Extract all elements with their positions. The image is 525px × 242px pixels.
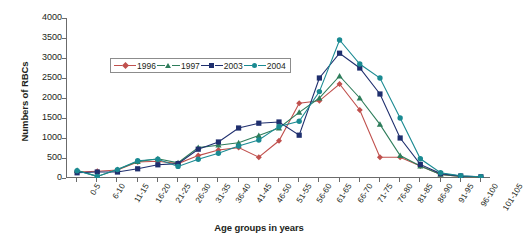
legend-item-2004[interactable]: 2004 <box>244 61 287 71</box>
x-tick-label: 86-90 <box>436 182 455 205</box>
x-tick-label: 46-50 <box>275 182 294 205</box>
x-tick-label: 11-15 <box>133 182 151 204</box>
x-tick-mark <box>298 178 299 182</box>
legend-label: 1996 <box>136 61 157 71</box>
x-tick-label: 26-30 <box>194 182 213 205</box>
legend-label: 1997 <box>180 61 201 71</box>
data-point <box>296 109 302 115</box>
data-point <box>337 37 342 42</box>
x-tick-mark <box>116 178 117 182</box>
x-tick-mark <box>197 178 198 182</box>
legend-item-2003[interactable]: 2003 <box>201 61 244 71</box>
y-tick-label: 1000 <box>18 133 62 142</box>
x-tick-label: 101-105 <box>501 182 525 212</box>
x-tick-mark <box>137 178 138 182</box>
legend-marker-icon <box>209 63 214 68</box>
data-point <box>196 157 201 162</box>
data-point <box>135 158 140 163</box>
data-point <box>256 137 261 142</box>
y-tick-mark <box>62 18 66 19</box>
x-axis-tick-labels: 0-56-1011-1516-2021-2526-3031-3536-4041-… <box>66 178 490 224</box>
data-point <box>297 133 302 138</box>
x-tick-mark <box>217 178 218 182</box>
data-point <box>115 167 120 172</box>
x-tick-mark <box>379 178 380 182</box>
x-tick-mark <box>318 178 319 182</box>
plot-area <box>66 18 490 178</box>
legend-item-1996[interactable]: 1996 <box>114 61 157 71</box>
y-tick-label: 3000 <box>18 53 62 62</box>
data-point <box>276 124 281 129</box>
legend: 1996199720032004 <box>110 58 291 73</box>
x-tick-mark <box>419 178 420 182</box>
x-tick-label: 36-40 <box>234 182 253 205</box>
x-tick-mark <box>238 178 239 182</box>
data-point <box>155 157 160 162</box>
y-tick-label: 1500 <box>18 113 62 122</box>
y-tick-label: 3500 <box>18 33 62 42</box>
x-tick-label: 66-70 <box>355 182 374 205</box>
y-tick-mark <box>62 78 66 79</box>
x-tick-label: 81-85 <box>416 182 435 205</box>
x-tick-label: 41-45 <box>254 182 273 205</box>
data-point <box>418 162 423 167</box>
x-tick-mark <box>157 178 158 182</box>
x-tick-mark <box>339 178 340 182</box>
x-axis-title: Age groups in years <box>0 222 518 233</box>
legend-item-1997[interactable]: 1997 <box>157 61 201 71</box>
x-tick-mark <box>258 178 259 182</box>
data-point <box>397 115 402 120</box>
data-point <box>216 151 221 156</box>
x-tick-mark <box>76 178 77 182</box>
legend-label: 2003 <box>223 61 244 71</box>
data-point <box>74 168 79 173</box>
legend-line-icon <box>258 65 266 66</box>
legend-line-icon <box>244 65 252 66</box>
y-tick-mark <box>62 38 66 39</box>
legend-line-icon <box>215 65 223 66</box>
y-tick-mark <box>62 58 66 59</box>
legend-line-icon <box>157 65 165 66</box>
data-point <box>398 135 403 140</box>
data-point <box>296 100 302 106</box>
x-tick-label: 51-55 <box>295 182 314 205</box>
legend-label: 2004 <box>266 61 287 71</box>
data-point <box>377 91 382 96</box>
x-tick-label: 16-20 <box>154 182 173 205</box>
x-tick-mark <box>359 178 360 182</box>
data-point <box>438 170 443 175</box>
data-point <box>216 139 221 144</box>
legend-marker-icon <box>252 63 257 68</box>
y-tick-mark <box>62 138 66 139</box>
data-point <box>236 143 241 148</box>
x-tick-mark <box>440 178 441 182</box>
data-point <box>377 154 383 160</box>
data-point <box>336 73 342 79</box>
x-tick-mark <box>177 178 178 182</box>
y-tick-mark <box>62 98 66 99</box>
x-tick-mark <box>460 178 461 182</box>
data-point <box>317 75 322 80</box>
x-tick-label: 61-65 <box>335 182 354 205</box>
legend-line-icon <box>172 65 180 66</box>
y-tick-mark <box>62 178 66 179</box>
y-tick-mark <box>62 118 66 119</box>
y-tick-label: 500 <box>18 153 62 162</box>
x-tick-label: 6-10 <box>111 182 127 201</box>
y-tick-label: 0 <box>18 173 62 182</box>
data-point <box>317 89 322 94</box>
x-tick-mark <box>96 178 97 182</box>
series-layer <box>67 18 491 178</box>
data-point <box>296 119 301 124</box>
data-point <box>175 164 180 169</box>
y-tick-label: 2000 <box>18 93 62 102</box>
x-tick-label: 31-35 <box>214 182 233 205</box>
data-point <box>236 125 241 130</box>
data-point <box>418 156 423 161</box>
data-point <box>397 153 403 159</box>
x-tick-label: 71-75 <box>376 182 395 205</box>
data-point <box>135 166 140 171</box>
data-point <box>377 75 382 80</box>
y-tick-label: 4000 <box>18 13 62 22</box>
x-tick-label: 91-95 <box>456 182 475 205</box>
